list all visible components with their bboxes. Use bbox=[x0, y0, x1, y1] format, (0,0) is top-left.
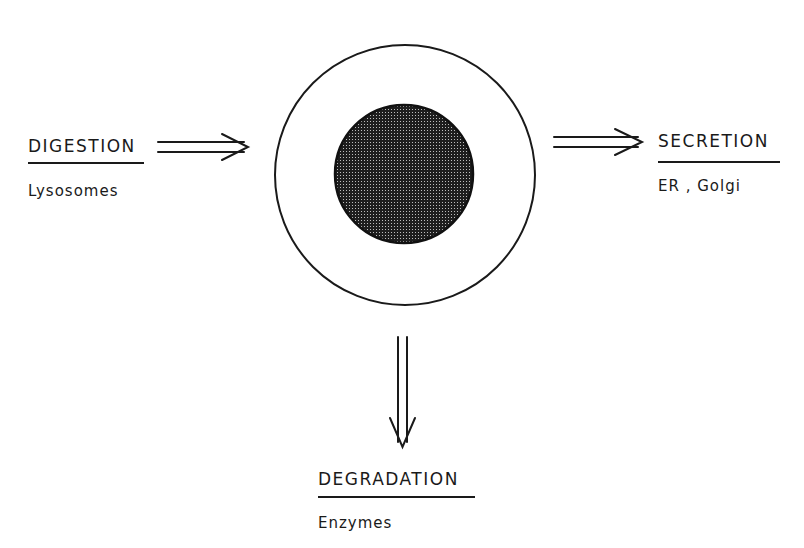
nucleus-circle bbox=[335, 105, 473, 243]
secretion-underline bbox=[658, 161, 780, 163]
secretion-title: SECRETION bbox=[658, 131, 769, 151]
diagram-canvas bbox=[0, 0, 804, 548]
digestion-underline bbox=[28, 162, 144, 164]
degradation-arrow-icon bbox=[390, 337, 415, 447]
digestion-arrow-icon bbox=[158, 134, 248, 160]
secretion-subtitle: ER , Golgi bbox=[658, 177, 741, 195]
secretion-arrow-icon bbox=[554, 129, 642, 155]
digestion-subtitle: Lysosomes bbox=[28, 182, 119, 200]
digestion-title: DIGESTION bbox=[28, 136, 136, 156]
degradation-subtitle: Enzymes bbox=[318, 514, 392, 532]
degradation-title: DEGRADATION bbox=[318, 469, 459, 489]
degradation-underline bbox=[318, 496, 475, 498]
